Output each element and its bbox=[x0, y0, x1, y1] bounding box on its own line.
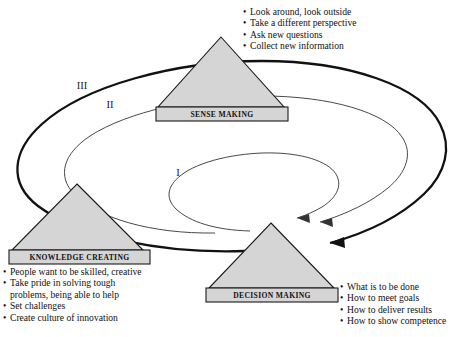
list-item-continuation: problems, being able to help bbox=[3, 289, 142, 300]
decision-making-label: DECISION MAKING bbox=[233, 291, 311, 300]
bullet-icon: • bbox=[243, 40, 246, 51]
list-item: •How to show competence bbox=[340, 315, 446, 326]
list-item-text: How to meet goals bbox=[347, 292, 419, 303]
bullet-icon: • bbox=[3, 266, 6, 277]
bullet-icon: • bbox=[340, 281, 343, 292]
list-item: •How to meet goals bbox=[340, 292, 446, 303]
list-item-text: Look around, look outside bbox=[250, 6, 351, 17]
list-item-text: problems, being able to help bbox=[10, 289, 119, 300]
bullet-icon: • bbox=[340, 292, 343, 303]
bullet-icon: • bbox=[243, 29, 246, 40]
ring-mid-arrowhead bbox=[320, 218, 333, 227]
list-item: •People want to be skilled, creative bbox=[3, 266, 142, 277]
list-item-text: How to show competence bbox=[347, 315, 446, 326]
list-item: •How to deliver results bbox=[340, 304, 446, 315]
list-item-text: Take a different perspective bbox=[250, 17, 357, 28]
list-item: •Take a different perspective bbox=[243, 17, 357, 28]
list-item: •Collect new information bbox=[243, 40, 357, 51]
list-item: •What is to be done bbox=[340, 281, 446, 292]
list-item: •Look around, look outside bbox=[243, 6, 357, 17]
knowledge-creating-triangle bbox=[12, 184, 143, 250]
ring-inner-path-i bbox=[169, 153, 339, 231]
list-item-text: What is to be done bbox=[347, 281, 419, 292]
list-item-text: People want to be skilled, creative bbox=[10, 266, 142, 277]
list-item-text: Set challenges bbox=[10, 300, 65, 311]
bullet-icon: • bbox=[243, 17, 246, 28]
list-item: •Take pride in solving tough bbox=[3, 277, 142, 288]
knowledge-creating-bullet-list: •People want to be skilled, creative •Ta… bbox=[3, 266, 142, 323]
sense-making-label: SENSE MAKING bbox=[190, 110, 253, 119]
ring-label-ii: II bbox=[107, 99, 114, 110]
list-item-text: Ask new questions bbox=[250, 29, 322, 40]
bullet-icon: • bbox=[243, 6, 246, 17]
knowledge-creating-label: KNOWLEDGE CREATING bbox=[29, 253, 129, 262]
bullet-icon: • bbox=[3, 277, 6, 288]
ring-label-i: I bbox=[176, 167, 180, 178]
list-item-text: Create culture of innovation bbox=[10, 312, 118, 323]
decision-making-triangle bbox=[209, 223, 334, 288]
list-item: •Ask new questions bbox=[243, 29, 357, 40]
list-item: •Create culture of innovation bbox=[3, 312, 142, 323]
knowledge-cycle-diagram: SENSE MAKING KNOWLEDGE CREATING DECISION… bbox=[0, 0, 462, 337]
list-item-text: Collect new information bbox=[250, 40, 344, 51]
list-item-text: Take pride in solving tough bbox=[10, 277, 115, 288]
ring-outer-arrowhead bbox=[330, 237, 345, 248]
bullet-icon: • bbox=[340, 315, 343, 326]
ring-label-iii: III bbox=[77, 80, 88, 91]
list-item-text: How to deliver results bbox=[347, 304, 432, 315]
bullet-icon: • bbox=[3, 300, 6, 311]
list-item: •Set challenges bbox=[3, 300, 142, 311]
decision-making-bullet-list: •What is to be done •How to meet goals •… bbox=[340, 281, 446, 327]
bullet-icon: • bbox=[3, 312, 6, 323]
bullet-icon: • bbox=[340, 304, 343, 315]
sense-making-bullet-list: •Look around, look outside •Take a diffe… bbox=[243, 6, 357, 52]
